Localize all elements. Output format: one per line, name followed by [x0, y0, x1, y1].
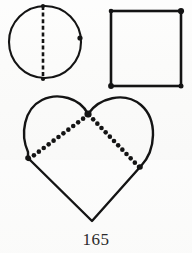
dot-left-vertex	[25, 155, 31, 161]
chord-right-dot	[120, 147, 125, 152]
page-number: 165	[0, 230, 192, 249]
dot-corner-bottom-right	[179, 84, 184, 89]
dot-corner-bottom-left	[108, 83, 114, 89]
chord-left-dot	[61, 131, 66, 136]
chord-left-dot	[46, 142, 51, 147]
chord-left-dot	[51, 138, 56, 143]
chord-left-dot	[32, 153, 37, 158]
dotted-chord-left	[27, 113, 91, 162]
figure-illustration	[0, 0, 192, 253]
figure-page: 165	[0, 0, 192, 253]
chord-right-dot	[116, 143, 121, 148]
chord-left-dot	[76, 120, 81, 125]
chord-right-dot	[133, 160, 138, 165]
dot-notch-center	[84, 110, 91, 117]
dotted-chord-right	[87, 113, 142, 170]
chord-right-dot	[103, 130, 108, 135]
chord-right-dot	[99, 126, 104, 131]
dot-right-edge	[77, 35, 82, 40]
dot-corner-top-left	[109, 9, 114, 14]
circle-marker-dots	[41, 4, 83, 81]
square-figure	[108, 8, 184, 89]
chord-left-dot	[56, 135, 61, 140]
circle-figure	[9, 4, 83, 81]
chord-right-dot	[95, 121, 100, 126]
chord-right-dot	[112, 139, 117, 144]
chord-left-dot	[66, 127, 71, 132]
dot-corner-top-right	[178, 8, 184, 14]
chord-right-dot	[124, 152, 129, 157]
chord-left-dot	[41, 146, 46, 151]
heart-figure	[24, 96, 153, 221]
chord-left-dot	[71, 124, 76, 129]
chord-left-dot	[81, 116, 86, 121]
dot-right-vertex	[137, 164, 143, 170]
chord-right-dot	[91, 117, 96, 122]
chord-left-dot	[37, 149, 42, 154]
dot-top	[41, 4, 45, 8]
circle-outline	[9, 6, 81, 78]
chord-right-dot	[108, 134, 113, 139]
chord-right-dot	[128, 156, 133, 161]
dot-bottom	[41, 77, 45, 81]
square-outline	[111, 11, 181, 86]
square-corner-dots	[108, 8, 184, 89]
